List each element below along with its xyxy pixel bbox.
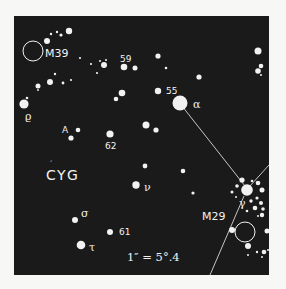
star	[133, 66, 138, 71]
scale-label: 1″ = 5°.4	[127, 250, 180, 264]
star	[260, 74, 262, 76]
star	[191, 191, 194, 194]
star	[235, 184, 239, 188]
star-rho-label: ϱ	[25, 110, 31, 123]
star	[62, 82, 65, 85]
star	[249, 199, 252, 202]
star	[99, 60, 101, 62]
star-tau	[77, 241, 86, 250]
star	[259, 64, 264, 69]
star	[54, 73, 56, 75]
star	[114, 97, 119, 102]
star	[143, 164, 148, 169]
star	[44, 38, 50, 44]
star	[105, 59, 107, 61]
star	[79, 57, 81, 59]
star-nu	[132, 181, 139, 188]
star-tau-label: τ	[89, 241, 95, 254]
star	[235, 196, 237, 198]
star	[255, 68, 261, 74]
star-A	[68, 135, 73, 140]
star-59-label: 59	[120, 54, 132, 64]
star	[246, 210, 249, 213]
star	[90, 63, 92, 65]
star	[50, 33, 52, 35]
star	[260, 213, 264, 217]
star	[36, 84, 41, 89]
star	[101, 62, 107, 68]
star	[267, 249, 269, 251]
star	[66, 28, 72, 34]
star	[56, 31, 58, 33]
star-61-label: 61	[119, 227, 130, 237]
star	[255, 48, 262, 55]
star-alpha	[173, 96, 188, 111]
star-62	[106, 130, 113, 137]
star	[262, 250, 267, 255]
star	[259, 201, 263, 205]
star-gamma	[241, 184, 253, 196]
star	[265, 229, 270, 234]
constellation-label: CYG	[46, 167, 79, 183]
star-alpha-label: α	[193, 98, 201, 111]
star	[181, 169, 186, 174]
star	[256, 251, 258, 253]
star	[26, 97, 29, 100]
star	[70, 79, 72, 81]
star	[76, 128, 81, 133]
cluster-m29-label: M29	[202, 210, 226, 223]
star-rho	[19, 99, 28, 108]
star	[229, 227, 235, 233]
star	[47, 79, 53, 85]
star-sigma	[72, 217, 78, 223]
star	[245, 243, 251, 249]
star-59	[121, 64, 128, 71]
star	[96, 72, 98, 74]
star-gamma-label: γ	[239, 197, 246, 210]
star	[261, 256, 263, 258]
star	[253, 206, 258, 211]
star-nu-label: ν	[144, 181, 151, 194]
star-61	[107, 229, 113, 235]
star	[261, 207, 265, 211]
star-A-label: A	[62, 125, 69, 135]
star	[255, 196, 258, 199]
star	[155, 53, 160, 58]
star-55-label: 55	[166, 86, 177, 96]
star	[251, 180, 254, 183]
star-sigma-label: σ	[81, 207, 89, 220]
star-chart: M39M29 α555962Aϱνσ61τγ CYG ´ 1″ = 5°.4	[0, 0, 286, 289]
star-55	[155, 88, 161, 94]
constellation-label-accent: ´	[49, 160, 53, 168]
cluster-m39-label: M39	[45, 47, 69, 60]
star	[59, 33, 62, 36]
star	[239, 177, 244, 182]
star	[165, 67, 168, 70]
star	[260, 188, 265, 193]
star	[143, 122, 150, 129]
star	[119, 90, 126, 97]
star	[153, 127, 158, 132]
star	[231, 191, 234, 194]
star	[37, 89, 39, 91]
star	[196, 74, 201, 79]
star	[247, 254, 249, 256]
star	[256, 181, 261, 186]
star-62-label: 62	[105, 141, 116, 151]
star	[257, 215, 259, 217]
